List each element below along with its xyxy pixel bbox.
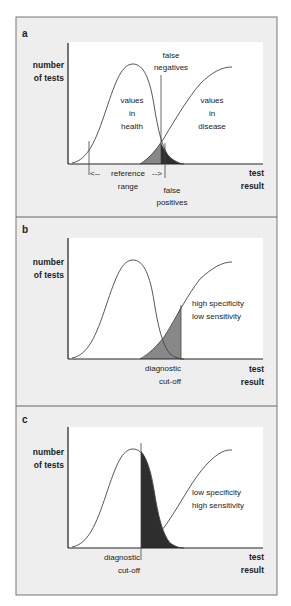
cutoff-label: diagnostic bbox=[145, 364, 181, 373]
x-axis-label: test bbox=[249, 364, 264, 374]
panel-letter: a bbox=[22, 28, 28, 39]
plot-area bbox=[69, 42, 263, 164]
x-axis-label: result bbox=[241, 377, 264, 387]
health-label: in bbox=[129, 109, 135, 118]
figure: a number of tests test result values in … bbox=[0, 0, 291, 606]
cutoff-label: diagnostic bbox=[104, 553, 140, 562]
panel-letter: c bbox=[22, 414, 28, 425]
y-axis-label: number bbox=[33, 257, 65, 267]
x-axis-label: test bbox=[249, 168, 264, 178]
disease-label: disease bbox=[198, 122, 226, 131]
reference-range-arrow-right: --> bbox=[152, 169, 162, 178]
x-axis-label: test bbox=[249, 552, 264, 562]
cutoff-label: cut-off bbox=[118, 566, 141, 575]
reference-range-label: range bbox=[118, 182, 139, 191]
y-axis-label: of tests bbox=[34, 73, 65, 83]
y-axis-label: number bbox=[33, 447, 65, 457]
health-label: health bbox=[121, 122, 143, 131]
cutoff-label: cut-off bbox=[159, 377, 182, 386]
false-positives-label: false bbox=[164, 186, 181, 195]
false-negatives-label: negatives bbox=[154, 63, 188, 72]
specificity-annotation: high specificity bbox=[192, 299, 244, 308]
sensitivity-annotation: high sensitivity bbox=[192, 501, 244, 510]
y-axis-label: of tests bbox=[34, 460, 65, 470]
y-axis-label: of tests bbox=[34, 270, 65, 280]
specificity-annotation: low specificity bbox=[192, 488, 241, 497]
false-negatives-label: false bbox=[163, 51, 180, 60]
disease-label: in bbox=[209, 109, 215, 118]
y-axis-label: number bbox=[33, 60, 65, 70]
reference-range-label: reference bbox=[111, 169, 145, 178]
sensitivity-annotation: low sensitivity bbox=[192, 312, 241, 321]
x-axis-label: result bbox=[241, 181, 264, 191]
false-positives-label: positives bbox=[156, 198, 187, 207]
disease-label: values bbox=[200, 96, 223, 105]
x-axis-label: result bbox=[241, 565, 264, 575]
reference-range-arrow-left: <-- bbox=[90, 169, 100, 178]
panel-letter: b bbox=[22, 224, 28, 235]
health-label: values bbox=[120, 96, 143, 105]
